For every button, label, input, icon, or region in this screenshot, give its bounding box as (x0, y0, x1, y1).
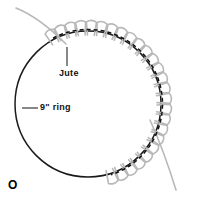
stitch-loop (137, 147, 152, 162)
diagram-canvas (0, 0, 206, 198)
stitch-loop (130, 38, 145, 53)
stitch-loop (137, 45, 152, 60)
stitch-loop (76, 21, 86, 36)
stitch-loop (157, 104, 172, 114)
jute-ring-diagram: Jute 9" ring O (0, 0, 206, 198)
ring-size-label: 9" ring (40, 103, 71, 112)
jute-label: Jute (59, 69, 79, 78)
stitch-loop (157, 93, 172, 103)
figure-marker: O (8, 179, 17, 191)
stitch-loop (86, 20, 96, 35)
stitch-loop (130, 154, 145, 169)
